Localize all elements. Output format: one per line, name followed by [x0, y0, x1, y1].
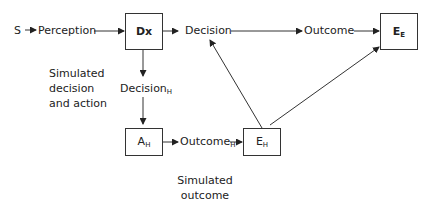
dx-label: Dx — [136, 25, 152, 38]
ah-label: AH — [138, 135, 151, 149]
node-dx-box: Dx — [125, 13, 163, 50]
note-simulated-decision: Simulated decision and action — [49, 66, 107, 111]
node-perception: Perception — [38, 24, 96, 37]
node-ah-box: AH — [125, 128, 163, 156]
node-stimulus: S — [14, 24, 21, 37]
arrow-eh-ee — [270, 47, 379, 125]
node-decision: Decision — [185, 24, 232, 37]
node-eh-box: EH — [243, 128, 281, 156]
node-outcome: Outcome — [304, 24, 354, 37]
node-ee-box: EE — [380, 13, 418, 50]
ee-label: EE — [393, 25, 405, 39]
node-outcome-h: OutcomeH — [180, 135, 235, 152]
note-simulated-outcome: Simulated outcome and evaluation — [155, 173, 255, 203]
arrow-eh-decision — [210, 40, 262, 128]
node-decision-h: DecisionH — [120, 82, 172, 99]
eh-label: EH — [256, 135, 268, 149]
